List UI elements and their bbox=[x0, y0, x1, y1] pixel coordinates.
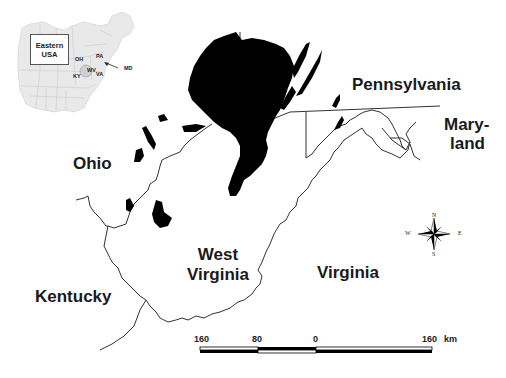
label-west-virginia-line1: West bbox=[178, 246, 258, 263]
label-virginia: Virginia bbox=[317, 264, 379, 281]
coal-area-wv-2 bbox=[152, 200, 172, 228]
label-maryland-line2: land bbox=[450, 135, 485, 152]
inset-label-pa: PA bbox=[96, 54, 103, 60]
coal-area-main bbox=[188, 32, 294, 196]
inset-label-ky: KY bbox=[73, 74, 81, 80]
label-west-virginia-line2: Virginia bbox=[178, 266, 258, 283]
compass-e: E bbox=[458, 230, 462, 236]
coal-area-oh-2 bbox=[134, 148, 144, 162]
scale-tick-160-right: 160 bbox=[422, 335, 437, 344]
scale-unit: km bbox=[444, 335, 457, 344]
inset-title-line2: USA bbox=[42, 50, 58, 59]
inset-title-line1: Eastern bbox=[36, 41, 64, 50]
inset-label-oh: OH bbox=[75, 57, 83, 63]
boundary-oh-ky bbox=[76, 196, 108, 226]
label-pennsylvania: Pennsylvania bbox=[352, 76, 461, 93]
coal-area-wv-1 bbox=[126, 198, 134, 212]
label-kentucky: Kentucky bbox=[35, 288, 112, 305]
compass-rose-icon bbox=[418, 218, 450, 250]
inset-label-wv: WV bbox=[87, 68, 96, 74]
inset-label-va: VA bbox=[96, 72, 103, 78]
boundary-ky-va bbox=[100, 300, 146, 350]
scale-tick-160-left: 160 bbox=[194, 335, 209, 344]
label-maryland-line1: Mary- bbox=[444, 116, 489, 133]
compass-s: S bbox=[432, 251, 435, 257]
coal-area-ridge-1 bbox=[292, 42, 310, 78]
scale-tick-0: 0 bbox=[313, 335, 318, 344]
label-ohio: Ohio bbox=[73, 155, 112, 172]
scale-bar bbox=[200, 347, 432, 353]
scale-tick-80: 80 bbox=[252, 335, 262, 344]
compass-n: N bbox=[432, 212, 436, 218]
compass-w: W bbox=[405, 230, 411, 236]
coal-area-oh-1 bbox=[142, 126, 156, 150]
inset-label-md: MD bbox=[124, 66, 133, 72]
coal-area-md-patch bbox=[334, 116, 344, 130]
boundary-wv-pa-panhandle bbox=[306, 110, 410, 158]
inset-title-box: Eastern USA bbox=[30, 34, 69, 65]
coal-area-oh-4 bbox=[158, 114, 168, 122]
coal-area-pa-patch bbox=[332, 94, 340, 108]
